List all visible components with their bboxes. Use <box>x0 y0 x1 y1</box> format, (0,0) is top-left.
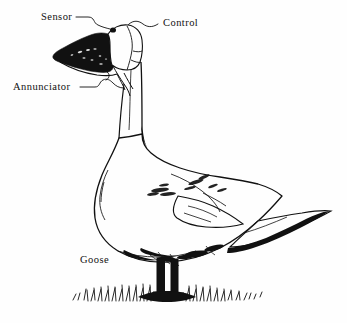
leader-line-sensor <box>76 17 110 29</box>
eye <box>110 27 116 32</box>
figure-canvas: Sensor Control Annunciator Goose <box>0 0 347 323</box>
goose-line-drawing <box>0 0 347 323</box>
label-control: Control <box>163 18 198 29</box>
label-annunciator: Annunciator <box>13 82 70 93</box>
label-sensor: Sensor <box>41 12 72 23</box>
label-goose: Goose <box>80 255 109 266</box>
leader-line-annunciator <box>80 79 124 88</box>
bill <box>53 33 117 76</box>
